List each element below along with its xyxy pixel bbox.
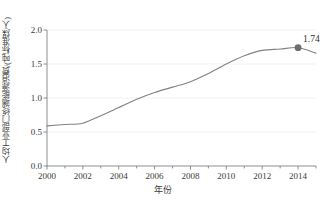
x-tick-label: 2008 xyxy=(173,172,207,181)
x-tick-label: 2006 xyxy=(138,172,172,181)
x-tick-labels: 20002002200420062008201020122014 xyxy=(0,0,326,208)
x-tick-label: 2010 xyxy=(209,172,243,181)
x-tick-label: 2000 xyxy=(30,172,64,181)
x-tick-label: 2012 xyxy=(245,172,279,181)
x-tick-label: 2002 xyxy=(66,172,100,181)
x-tick-label: 2004 xyxy=(102,172,136,181)
chart-figure: 人均工业部门终端能源消费/(吨标准煤/人) 0.00.51.01.52.0 20… xyxy=(0,0,326,208)
point-annotation-1.74: 1.74 xyxy=(303,35,320,45)
x-axis-title: 年份 xyxy=(0,183,326,196)
x-tick-label: 2014 xyxy=(281,172,315,181)
